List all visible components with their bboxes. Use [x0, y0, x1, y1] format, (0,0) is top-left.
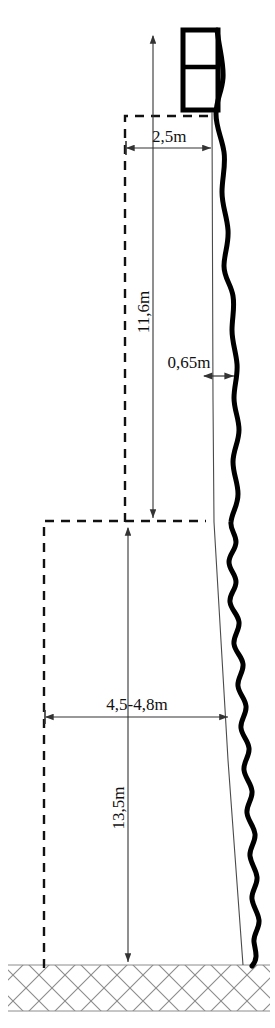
- hatched-ground-band: [8, 965, 270, 1011]
- lower-dashed-outline: [44, 521, 206, 968]
- wall-cross-section-figure: 2,5m 11,6m 0,65m 4,5-4,8m 13,5m: [0, 0, 275, 1028]
- dimension-label-top-width: 2,5m: [152, 127, 186, 146]
- dimension-base-width: 4,5-4,8m: [45, 695, 228, 724]
- dimension-label-lower-height: 13,5m: [109, 787, 128, 830]
- dimension-label-bulge-offset: 0,65m: [168, 353, 211, 372]
- dimension-upper-height: 11,6m: [134, 36, 153, 518]
- dimension-label-upper-height: 11,6m: [134, 291, 153, 333]
- dimension-lower-height: 13,5m: [109, 528, 128, 962]
- dimension-top-width: 2,5m: [126, 127, 211, 155]
- top-structure-box: [183, 30, 218, 110]
- dimension-label-base-width: 4,5-4,8m: [106, 695, 167, 714]
- wall-profile-curve: [216, 30, 259, 966]
- diagram-root: 2,5m 11,6m 0,65m 4,5-4,8m 13,5m: [0, 0, 275, 1028]
- dimension-bulge-offset: 0,65m: [168, 353, 234, 376]
